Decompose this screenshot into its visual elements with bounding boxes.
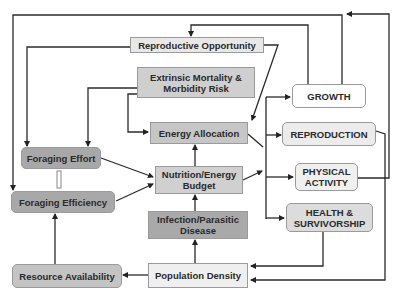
node-foraging-efficiency: Foraging Efficiency — [11, 191, 115, 213]
node-reproductive-opportunity: Reproductive Opportunity — [130, 37, 264, 53]
node-foraging-effort: Foraging Effort — [21, 147, 101, 169]
node-infection-disease: Infection/Parasitic Disease — [148, 211, 248, 239]
node-population-density: Population Density — [148, 263, 248, 288]
node-reproduction: REPRODUCTION — [282, 122, 376, 146]
node-physical-activity: PHYSICAL ACTIVITY — [295, 163, 358, 191]
node-growth: GROWTH — [292, 84, 366, 108]
node-resource-availability: Resource Availability — [12, 264, 122, 288]
node-health-survivorship: HEALTH & SURVIVORSHIP — [286, 203, 373, 232]
node-nutrition-budget: Nutrition/Energy Budget — [155, 166, 243, 194]
node-extrinsic-mortality: Extrinsic Mortality & Morbidity Risk — [137, 67, 255, 98]
node-energy-allocation: Energy Allocation — [150, 122, 248, 144]
